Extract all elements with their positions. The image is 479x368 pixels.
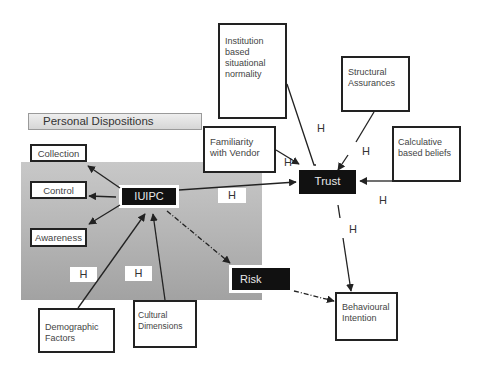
node-label: Collection: [38, 148, 80, 159]
edge-institution-trust: [287, 84, 316, 165]
node-institution: Institution based situational normality: [218, 23, 287, 119]
node-risk-wrapper: Risk: [229, 265, 293, 293]
edge-risk-behavioural: [294, 291, 334, 301]
hypothesis-label: H: [360, 144, 372, 158]
h-text: H: [228, 189, 236, 201]
node-label: Control: [43, 185, 74, 196]
h-text: H: [362, 145, 370, 157]
node-label: Trust: [315, 175, 341, 187]
h-text: H: [379, 194, 387, 206]
hypothesis-label: H: [377, 193, 389, 207]
edge-structural-trust: [356, 112, 374, 142]
node-behavioural: Behavioural Intention: [335, 292, 398, 341]
hypothesis-label: H: [70, 267, 97, 282]
node-collection: Collection: [30, 144, 87, 162]
edge-structural-trust-end: [338, 155, 348, 170]
node-control: Control: [30, 181, 87, 199]
node-familiarity: Familiarity with Vendor: [203, 126, 276, 173]
node-label: Structural Assurances: [348, 67, 395, 88]
node-label: Institution based situational normality: [225, 36, 266, 79]
h-text: H: [284, 156, 292, 168]
node-awareness: Awareness: [30, 228, 87, 247]
node-cultural: Cultural Dimensions: [133, 300, 197, 348]
edge-trust-behavioural-b: [343, 238, 351, 291]
node-label: Risk: [240, 273, 261, 285]
hypothesis-label: H: [125, 266, 152, 281]
node-iuipc-wrapper: IUIPC: [119, 185, 179, 208]
node-label: IUIPC: [134, 190, 163, 202]
edge-trust-behavioural-a: [338, 205, 340, 218]
hypothesis-label: H: [282, 155, 294, 169]
group-label: Personal Dispositions: [43, 115, 154, 127]
personal-dispositions-header: Personal Dispositions: [28, 113, 202, 130]
node-structural: Structural Assurances: [341, 56, 410, 112]
node-label: Calculative based beliefs: [398, 137, 451, 158]
node-label: Behavioural Intention: [342, 302, 390, 323]
node-label: Familiarity with Vendor: [210, 136, 260, 158]
hypothesis-label: H: [218, 188, 246, 203]
node-iuipc: IUIPC: [122, 188, 176, 205]
h-text: H: [317, 122, 325, 134]
hypothesis-label: H: [315, 121, 327, 135]
node-label: Cultural Dimensions: [138, 310, 182, 331]
node-label: Awareness: [35, 232, 82, 243]
node-trust: Trust: [299, 170, 356, 194]
node-calculative: Calculative based beliefs: [392, 126, 461, 182]
h-text: H: [80, 268, 88, 280]
hypothesis-label: H: [347, 222, 359, 236]
node-label: Demographic Factors: [45, 322, 99, 343]
node-demographic: Demographic Factors: [38, 308, 115, 353]
h-text: H: [135, 267, 143, 279]
node-risk: Risk: [232, 268, 290, 290]
h-text: H: [349, 223, 357, 235]
